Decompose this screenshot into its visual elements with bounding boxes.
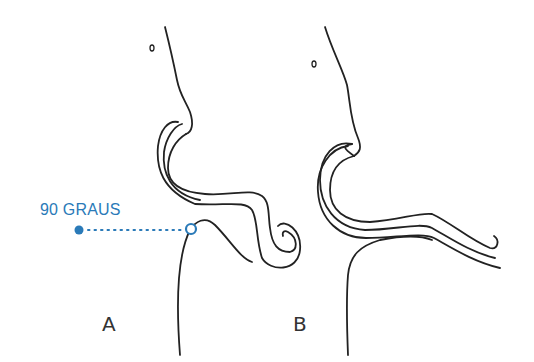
panel-label-b: B	[293, 312, 307, 336]
upper-profile-b	[325, 27, 360, 156]
lip-edge-b	[345, 144, 354, 156]
angle-indicator	[75, 224, 197, 235]
panel-label-a: A	[102, 312, 116, 336]
angle-label: 90 GRAUS	[40, 201, 121, 219]
angle-start-dot-icon	[75, 226, 84, 235]
lip-mid-b	[320, 143, 495, 258]
diagram-canvas	[0, 0, 534, 362]
nostril-a-icon	[150, 45, 154, 51]
lip-outer-b	[330, 156, 497, 248]
lower-profile-b	[347, 237, 432, 355]
upper-profile-a	[165, 27, 192, 134]
lip-mid-a	[158, 122, 301, 268]
angle-end-ring-icon	[186, 224, 196, 234]
nostril-b-icon	[312, 61, 316, 67]
lower-profile-a	[178, 220, 252, 355]
profile-a	[150, 27, 300, 355]
profile-b	[312, 27, 500, 355]
